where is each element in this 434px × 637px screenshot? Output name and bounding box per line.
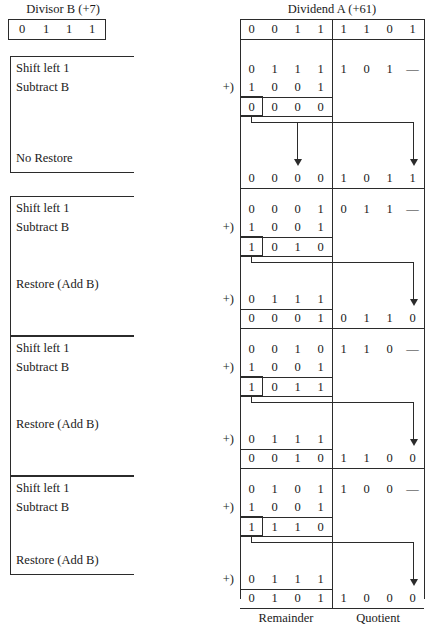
dividend-label: Dividend A (+61) [240, 2, 424, 17]
iter3-shift-quotient-bit-0: 1 [332, 340, 355, 358]
iter3-shift-remainder-bit-0: 0 [240, 340, 263, 358]
divisor-bit-3: 1 [80, 20, 104, 39]
iter1-difference-bit-2: 0 [286, 98, 309, 116]
iter1-difference-bit-1: 0 [263, 98, 286, 116]
iter4-restore-bit-2: 1 [286, 570, 309, 588]
plus-operator: +) [216, 218, 234, 236]
iter3-shift-quotient-bit-1: 1 [355, 340, 378, 358]
iter2-restore-bit-1: 1 [263, 290, 286, 308]
rule [413, 122, 414, 159]
step-block-4: Shift left 1 Subtract B Restore (Add B) [10, 476, 134, 575]
initial-quotient-bit-3: 1 [401, 20, 424, 38]
iter2-shift-remainder-bit-2: 0 [286, 200, 309, 218]
iter4-result-quotient-bit-0: 1 [332, 589, 355, 607]
iter1-shift-quotient-bit-1: 0 [355, 60, 378, 78]
iter1-difference-bit-3: 0 [309, 98, 332, 116]
initial-quotient-bit-2: 0 [378, 20, 401, 38]
iter3-shift-quotient-bit-3: — [401, 340, 424, 358]
rule [332, 19, 333, 608]
rule [297, 122, 298, 159]
iter3-shift-remainder-bit-1: 0 [263, 340, 286, 358]
iter2-difference-bit-3: 0 [309, 238, 332, 256]
iter4-subtract-bit-0: 1 [240, 498, 263, 516]
iter4-shift-quotient-bit-3: — [401, 480, 424, 498]
divisor-label: Divisor B (+7) [8, 2, 118, 17]
initial-remainder-bit-3: 1 [309, 20, 332, 38]
iter3-restore-bit-3: 1 [309, 430, 332, 448]
iter1-subtract-bit-3: 1 [309, 78, 332, 96]
iter3-quotient-arrow [410, 439, 418, 446]
iter3-result-remainder-bit-2: 1 [286, 449, 309, 467]
iter2-restore-bit-3: 1 [309, 290, 332, 308]
rule [240, 256, 332, 257]
iter1-sign-bit-box [240, 96, 263, 116]
step-3-line-1: Shift left 1 [16, 341, 69, 356]
iter1-shift-remainder-bit-0: 0 [240, 60, 263, 78]
iter1-subtract-bit-1: 0 [263, 78, 286, 96]
iter3-subtract-bit-2: 0 [286, 358, 309, 376]
step-2-line-2: Subtract B [16, 220, 69, 235]
iter4-quotient-arrow [410, 579, 418, 586]
iter3-sign-bit-box [240, 376, 263, 396]
iter4-sign-bit-box [240, 516, 263, 536]
iter4-difference-bit-3: 0 [309, 518, 332, 536]
iter4-restore-bit-1: 1 [263, 570, 286, 588]
iter2-result-remainder-bit-0: 0 [240, 309, 263, 327]
iter3-result-remainder-bit-0: 0 [240, 449, 263, 467]
iter1-shift-remainder-bit-2: 1 [286, 60, 309, 78]
plus-operator: +) [216, 78, 234, 96]
iter1-shift-quotient-bit-2: 1 [378, 60, 401, 78]
iter2-subtract-bit-1: 0 [263, 218, 286, 236]
rule [413, 542, 414, 579]
iter3-subtract-bit-3: 1 [309, 358, 332, 376]
plus-operator: +) [216, 290, 234, 308]
iter2-result-quotient-bit-3: 0 [401, 309, 424, 327]
iter4-restore-bit-0: 0 [240, 570, 263, 588]
iter2-result-remainder-bit-3: 1 [309, 309, 332, 327]
divisor-bit-0: 0 [10, 20, 34, 39]
iter4-restore-bit-3: 1 [309, 570, 332, 588]
iter2-shift-quotient-bit-3: — [401, 200, 424, 218]
iter2-shift-remainder-bit-3: 1 [309, 200, 332, 218]
rule [424, 19, 425, 599]
iter1-result-remainder-bit-0: 0 [240, 169, 263, 187]
iter1-result-quotient-bit-0: 1 [332, 169, 355, 187]
iter1-remainder-arrow [294, 159, 302, 166]
step-2-outcome: Restore (Add B) [16, 277, 99, 292]
iter1-subtract-bit-2: 0 [286, 78, 309, 96]
iter1-shift-remainder-bit-3: 1 [309, 60, 332, 78]
iter2-shift-remainder-bit-0: 0 [240, 200, 263, 218]
divisor-register: 0 1 1 1 [8, 19, 106, 40]
iter4-shift-quotient-bit-2: 0 [378, 480, 401, 498]
plus-operator: +) [216, 430, 234, 448]
iter3-shift-remainder-bit-3: 0 [309, 340, 332, 358]
iter2-shift-quotient-bit-2: 1 [378, 200, 401, 218]
iter4-shift-remainder-bit-3: 1 [309, 480, 332, 498]
iter1-shift-quotient-bit-0: 1 [332, 60, 355, 78]
iter2-difference-bit-2: 1 [286, 238, 309, 256]
step-3-outcome: Restore (Add B) [16, 417, 99, 432]
step-2-line-1: Shift left 1 [16, 201, 69, 216]
iter3-difference-bit-3: 1 [309, 378, 332, 396]
rule [413, 262, 414, 299]
iter2-sign-bit-box [240, 236, 263, 256]
iter4-difference-bit-1: 1 [263, 518, 286, 536]
iter1-result-remainder-bit-2: 0 [286, 169, 309, 187]
iter3-difference-bit-2: 1 [286, 378, 309, 396]
plus-operator: +) [216, 498, 234, 516]
step-block-3: Shift left 1 Subtract B Restore (Add B) [10, 336, 134, 476]
iter2-result-quotient-bit-1: 1 [355, 309, 378, 327]
iter1-quotient-arrow [410, 159, 418, 166]
divisor-bit-2: 1 [57, 20, 81, 39]
iter3-result-remainder-bit-3: 0 [309, 449, 332, 467]
iter4-shift-remainder-bit-1: 1 [263, 480, 286, 498]
iter1-result-quotient-bit-3: 1 [401, 169, 424, 187]
iter4-result-quotient-bit-2: 0 [378, 589, 401, 607]
iter4-result-remainder-bit-0: 0 [240, 589, 263, 607]
iter4-shift-remainder-bit-2: 0 [286, 480, 309, 498]
iter3-restore-bit-0: 0 [240, 430, 263, 448]
iter3-shift-remainder-bit-2: 1 [286, 340, 309, 358]
iter3-difference-bit-1: 0 [263, 378, 286, 396]
step-1-outcome: No Restore [16, 151, 73, 166]
iter1-result-remainder-bit-3: 0 [309, 169, 332, 187]
